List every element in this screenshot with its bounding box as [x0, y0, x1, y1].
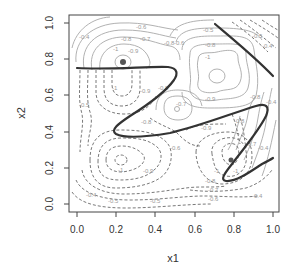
contour-label: -0.4	[266, 99, 277, 105]
y-tick-label: 0.0	[44, 197, 55, 211]
x-tick-label: 0.4	[148, 224, 162, 235]
contour-label: -0.5	[79, 102, 90, 108]
x-tick-label: 0.0	[70, 224, 84, 235]
contour-label: -0.9	[205, 96, 216, 102]
contour-label: -1	[113, 46, 119, 52]
x-tick-labels: 0.0 0.2 0.4 0.6 0.8 1.0	[70, 224, 280, 235]
contour-label: -0.8	[205, 42, 216, 48]
y-tick-labels: 0.0 0.2 0.4 0.6 0.8 1.0	[44, 16, 55, 211]
contour-label: -0.4	[252, 193, 263, 199]
y-tick-label: 1.0	[44, 16, 55, 30]
contour-label: -0.6	[170, 145, 181, 151]
y-axis-title: x2	[15, 107, 27, 119]
contour-label: -0.5	[108, 198, 119, 204]
contour-label: -1	[233, 168, 239, 174]
y-tick-label: 0.6	[44, 88, 55, 102]
x-axis	[77, 212, 273, 217]
contour-label: -0.9	[143, 168, 154, 174]
y-axis	[64, 23, 69, 204]
contour-label: -0.6	[136, 24, 147, 30]
contour-label: -1	[205, 54, 211, 60]
contour-label: -0.5	[252, 33, 263, 39]
contour-label: -0.7	[140, 36, 151, 42]
contour-label: -0.8	[234, 118, 245, 124]
contour-label: -0.9	[201, 125, 212, 131]
contour-label: -0.7	[176, 101, 187, 107]
contour-label: -1	[118, 167, 124, 173]
contour-label: -0.8	[250, 94, 261, 100]
data-point	[120, 59, 126, 65]
contour-label: -0.9	[140, 88, 151, 94]
contour-label: -0.8	[205, 178, 216, 184]
y-tick-label: 0.2	[44, 161, 55, 175]
x-axis-title: x1	[167, 252, 179, 264]
contour-label: -0.4	[258, 145, 269, 151]
contour-label: -1	[112, 85, 118, 91]
y-tick-label: 0.4	[44, 125, 55, 139]
contour-label: -0.4	[262, 43, 273, 49]
contour-label: -1	[214, 168, 220, 174]
x-tick-label: 1.0	[266, 224, 280, 235]
contour-label: -0.8	[141, 119, 152, 125]
data-point	[229, 158, 234, 163]
contour-label: -0.5	[150, 198, 161, 204]
contour-label: -0.4	[86, 192, 97, 198]
contour-label: -0.4	[79, 34, 90, 40]
contour-label: -0.8	[121, 36, 132, 42]
x-tick-label: 0.2	[109, 224, 123, 235]
contour-label: -0.6	[208, 196, 219, 202]
contour-label: -0.9	[128, 48, 139, 54]
y-tick-label: 0.8	[44, 52, 55, 66]
x-tick-label: 0.6	[188, 224, 202, 235]
x-tick-label: 0.8	[227, 224, 241, 235]
contour-label: -0.5	[203, 27, 214, 33]
contour-label: -0.6	[174, 40, 185, 46]
contour-label: -0.7	[208, 187, 219, 193]
contour-chart: 0.0 0.2 0.4 0.6 0.8 1.0 0.0 0.2 0.4 0.6 …	[0, 0, 295, 271]
